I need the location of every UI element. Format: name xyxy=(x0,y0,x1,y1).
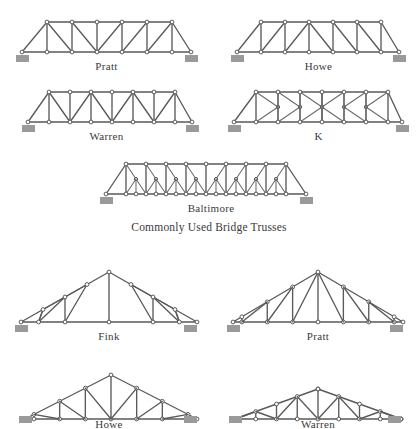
truss-drawing-howe-bridge xyxy=(231,14,406,58)
truss-figure-pratt-bridge xyxy=(14,14,199,58)
truss-figure-pratt-roof xyxy=(226,266,410,328)
truss-drawing-baltimore-bridge xyxy=(100,156,322,200)
truss-caption-warren-bridge: Warren xyxy=(14,130,199,142)
truss-figure-warren-roof xyxy=(228,363,408,419)
truss-caption-pratt-roof: Pratt xyxy=(226,330,410,342)
truss-caption-baltimore-bridge: Baltimore xyxy=(100,202,322,214)
truss-figure-fink-roof xyxy=(14,266,204,328)
truss-caption-howe-bridge: Howe xyxy=(231,60,406,72)
truss-drawing-fink-roof xyxy=(14,266,204,328)
truss-figure-warren-bridge xyxy=(22,84,200,128)
truss-caption-pratt-bridge: Pratt xyxy=(14,60,199,72)
truss-figure-howe-roof xyxy=(18,363,204,419)
truss-drawing-howe-roof xyxy=(18,363,204,419)
truss-diagram-sheet: PrattHoweWarrenKBaltimoreFinkPrattHoweWa… xyxy=(0,0,418,429)
truss-caption-howe-roof: Howe xyxy=(14,418,204,429)
truss-drawing-k-bridge xyxy=(228,84,408,128)
bridge-section-title: Commonly Used Bridge Trusses xyxy=(0,221,418,233)
truss-drawing-pratt-roof xyxy=(226,266,410,328)
truss-caption-warren-roof: Warren xyxy=(226,418,410,429)
truss-drawing-warren-bridge xyxy=(22,84,200,128)
truss-figure-baltimore-bridge xyxy=(100,156,322,200)
truss-figure-k-bridge xyxy=(228,84,408,128)
truss-caption-k-bridge: K xyxy=(231,130,406,142)
truss-caption-fink-roof: Fink xyxy=(14,330,204,342)
truss-figure-howe-bridge xyxy=(231,14,406,58)
truss-drawing-warren-roof xyxy=(228,363,408,419)
truss-drawing-pratt-bridge xyxy=(14,14,199,58)
